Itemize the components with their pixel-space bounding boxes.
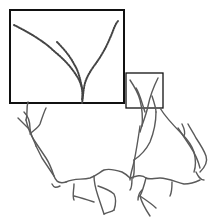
skeleton-diagram	[0, 0, 216, 224]
inset-zoom-view	[10, 10, 124, 103]
inset-frame	[10, 10, 124, 103]
skeleton-figure	[0, 0, 216, 224]
